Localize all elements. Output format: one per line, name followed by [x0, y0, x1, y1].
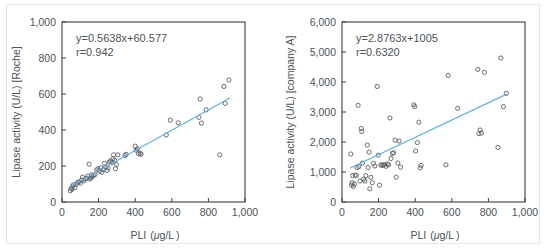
scatter-point	[364, 174, 368, 178]
scatter-point	[482, 70, 486, 74]
chart-panel-right: 01,0002,0003,0004,0005,0006,000 02004006…	[274, 0, 548, 252]
y-axis-tick-label: 0	[330, 196, 336, 208]
x-axis-label-close-left: )	[176, 229, 180, 241]
x-axis-tick-label: 600	[443, 206, 461, 218]
y-axis-tick-label: 3,000	[310, 106, 336, 118]
scatter-point	[366, 165, 370, 169]
scatter-point	[369, 175, 373, 179]
equation-annotation-left: y=0.5638x+60.577	[76, 32, 167, 44]
figure-container: 02004006008001,000 02004006008001,000 y=…	[0, 0, 548, 252]
scatter-point	[218, 153, 222, 157]
scatter-point	[417, 120, 421, 124]
x-axis-tick-label: 200	[90, 206, 108, 218]
data-points-left	[68, 78, 231, 193]
scatter-point	[356, 103, 360, 107]
x-axis-label-left: PLI(μg/L)	[130, 229, 179, 241]
scatter-point	[222, 84, 226, 88]
x-axis-tick-label: 1,000	[232, 206, 258, 218]
x-axis-tick-label: 800	[480, 206, 498, 218]
scatter-point	[176, 121, 180, 125]
y-axis-tick-label: 5,000	[310, 46, 336, 58]
scatter-point	[113, 167, 117, 171]
x-axis-tick-label: 200	[370, 206, 388, 218]
scatter-point	[370, 181, 374, 185]
y-axis-tick-label: 2,000	[310, 136, 336, 148]
scatter-point	[396, 161, 400, 165]
scatter-point	[87, 162, 91, 166]
scatter-point	[114, 162, 118, 166]
x-axis-label-close-right: )	[456, 229, 460, 241]
chart-panel-left: 02004006008001,000 02004006008001,000 y=…	[0, 0, 274, 252]
correlation-annotation-right: r=0.6320	[356, 46, 400, 58]
scatter-point	[375, 84, 379, 88]
scatter-point	[199, 121, 203, 125]
y-axis-label-left: Lipase activity (U/L) [Roche]	[10, 46, 22, 177]
y-axis-tick-label: 1,000	[310, 166, 336, 178]
scatter-point	[227, 78, 231, 82]
scatter-point	[388, 116, 392, 120]
scatter-point	[415, 141, 419, 145]
scatter-point	[413, 149, 417, 153]
y-axis-tick-label: 1,000	[30, 16, 56, 28]
x-axis-tick-label: 0	[59, 206, 65, 218]
y-axis-tick-label: 4,000	[310, 76, 336, 88]
scatter-point	[198, 97, 202, 101]
scatter-point	[360, 129, 364, 133]
equation-annotation-right: y=2.8763x+1005	[356, 32, 438, 44]
x-axis-tick-label: 800	[200, 206, 218, 218]
scatter-point	[116, 153, 120, 157]
correlation-annotation-left: r=0.942	[76, 46, 114, 58]
x-axis-tick-label: 0	[339, 206, 345, 218]
scatter-point	[394, 175, 398, 179]
scatter-point	[499, 56, 503, 60]
scatter-point	[365, 143, 369, 147]
scatter-point	[496, 145, 500, 149]
scatter-point	[456, 106, 460, 110]
x-axis-label-name-right: PLI	[410, 229, 426, 241]
scatter-point	[501, 105, 505, 109]
y-axis-tick-label: 800	[38, 52, 56, 64]
y-axis-tick-label: 0	[50, 196, 56, 208]
x-axis-tick-label: 400	[406, 206, 424, 218]
regression-line-right	[350, 94, 506, 168]
x-axis-label-name-left: PLI	[130, 229, 146, 241]
x-axis-label-unit-right: g/L	[439, 229, 454, 241]
y-axis-tick-label: 600	[38, 88, 56, 100]
scatter-point	[398, 165, 402, 169]
scatter-plot-left: 02004006008001,000 02004006008001,000 y=…	[0, 0, 274, 252]
scatter-point	[393, 138, 397, 142]
y-axis-tick-label: 200	[38, 160, 56, 172]
y-axis-tick-label: 400	[38, 124, 56, 136]
scatter-point	[377, 183, 381, 187]
scatter-point	[476, 67, 480, 71]
x-axis-tick-label: 400	[126, 206, 144, 218]
scatter-point	[112, 153, 116, 157]
data-points-right	[349, 56, 509, 191]
x-axis-label-right: PLI(μg/L)	[410, 229, 459, 241]
x-axis-label-unit-left: g/L	[159, 229, 174, 241]
scatter-point	[389, 156, 393, 160]
x-axis-tick-label: 600	[163, 206, 181, 218]
y-axis-label-right: Lipase activity (U/L) [company A]	[284, 35, 296, 188]
scatter-plot-right: 01,0002,0003,0004,0005,0006,000 02004006…	[274, 0, 548, 252]
scatter-point	[446, 73, 450, 77]
x-axis-tick-label: 1,000	[512, 206, 538, 218]
scatter-point	[368, 187, 372, 191]
scatter-point	[168, 118, 172, 122]
scatter-point	[444, 163, 448, 167]
y-axis-tick-label: 6,000	[310, 16, 336, 28]
regression-line-left	[69, 98, 230, 187]
scatter-point	[367, 150, 371, 154]
scatter-point	[349, 152, 353, 156]
scatter-point	[397, 139, 401, 143]
